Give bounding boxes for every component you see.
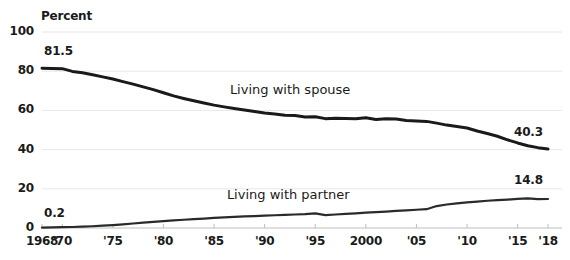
series-line xyxy=(42,198,548,227)
value-callout-spouse-end: 40.3 xyxy=(514,125,543,139)
plot-area xyxy=(0,0,570,260)
value-callout-spouse-start: 81.5 xyxy=(44,44,73,58)
value-callout-partner-start: 0.2 xyxy=(44,206,65,220)
series-line xyxy=(42,68,548,149)
chart-container: Percent 020406080100 1968'70'75'80'85'90… xyxy=(0,0,570,260)
value-callout-partner-end: 14.8 xyxy=(514,173,543,187)
series-label-living-with-spouse: Living with spouse xyxy=(230,82,351,97)
series-label-living-with-partner: Living with partner xyxy=(227,187,350,202)
